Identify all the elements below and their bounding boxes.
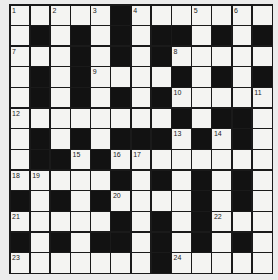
crossword-cell[interactable]: 14 bbox=[212, 129, 231, 148]
crossword-cell[interactable]: 15 bbox=[71, 150, 90, 169]
crossword-cell[interactable] bbox=[233, 150, 252, 169]
crossword-cell[interactable] bbox=[212, 88, 231, 107]
crossword-cell[interactable] bbox=[31, 191, 50, 210]
crossword-cell[interactable] bbox=[192, 253, 211, 272]
crossword-cell[interactable] bbox=[253, 212, 272, 231]
crossword-cell[interactable] bbox=[132, 88, 151, 107]
crossword-cell[interactable] bbox=[51, 253, 70, 272]
crossword-cell[interactable]: 12 bbox=[11, 109, 30, 128]
crossword-cell[interactable] bbox=[91, 47, 110, 66]
crossword-cell[interactable] bbox=[31, 212, 50, 231]
crossword-cell[interactable] bbox=[71, 233, 90, 252]
crossword-cell[interactable] bbox=[192, 150, 211, 169]
crossword-cell[interactable] bbox=[152, 191, 171, 210]
crossword-cell[interactable] bbox=[253, 109, 272, 128]
crossword-cell[interactable] bbox=[11, 129, 30, 148]
crossword-cell[interactable]: 4 bbox=[132, 6, 151, 25]
crossword-cell[interactable] bbox=[31, 6, 50, 25]
crossword-cell[interactable] bbox=[51, 129, 70, 148]
crossword-cell[interactable] bbox=[192, 109, 211, 128]
crossword-cell[interactable] bbox=[31, 109, 50, 128]
crossword-cell[interactable] bbox=[172, 233, 191, 252]
crossword-cell[interactable] bbox=[31, 233, 50, 252]
crossword-cell[interactable] bbox=[71, 191, 90, 210]
crossword-cell[interactable]: 9 bbox=[91, 67, 110, 86]
crossword-cell[interactable] bbox=[132, 171, 151, 190]
crossword-cell[interactable] bbox=[51, 47, 70, 66]
crossword-cell[interactable]: 23 bbox=[11, 253, 30, 272]
crossword-cell[interactable] bbox=[132, 109, 151, 128]
crossword-cell[interactable]: 19 bbox=[31, 171, 50, 190]
crossword-cell[interactable] bbox=[192, 47, 211, 66]
crossword-cell[interactable] bbox=[132, 26, 151, 45]
crossword-cell[interactable] bbox=[51, 88, 70, 107]
crossword-cell[interactable] bbox=[253, 6, 272, 25]
crossword-cell[interactable] bbox=[11, 26, 30, 45]
crossword-cell[interactable] bbox=[152, 67, 171, 86]
crossword-cell[interactable] bbox=[11, 150, 30, 169]
crossword-cell[interactable] bbox=[212, 47, 231, 66]
crossword-cell[interactable] bbox=[253, 129, 272, 148]
crossword-cell[interactable] bbox=[51, 26, 70, 45]
crossword-cell[interactable]: 21 bbox=[11, 212, 30, 231]
crossword-cell[interactable] bbox=[192, 67, 211, 86]
crossword-cell[interactable] bbox=[91, 26, 110, 45]
crossword-cell[interactable]: 16 bbox=[111, 150, 130, 169]
crossword-cell[interactable] bbox=[233, 88, 252, 107]
crossword-cell[interactable] bbox=[233, 212, 252, 231]
crossword-cell[interactable] bbox=[172, 6, 191, 25]
crossword-cell[interactable] bbox=[253, 253, 272, 272]
crossword-cell[interactable]: 8 bbox=[172, 47, 191, 66]
crossword-cell[interactable]: 24 bbox=[172, 253, 191, 272]
crossword-cell[interactable] bbox=[51, 67, 70, 86]
crossword-cell[interactable]: 10 bbox=[172, 88, 191, 107]
crossword-cell[interactable] bbox=[111, 253, 130, 272]
crossword-cell[interactable]: 7 bbox=[11, 47, 30, 66]
crossword-cell[interactable] bbox=[91, 212, 110, 231]
crossword-cell[interactable] bbox=[71, 171, 90, 190]
crossword-cell[interactable] bbox=[212, 6, 231, 25]
crossword-cell[interactable] bbox=[91, 171, 110, 190]
crossword-cell[interactable] bbox=[233, 67, 252, 86]
crossword-cell[interactable]: 1 bbox=[11, 6, 30, 25]
crossword-cell[interactable]: 13 bbox=[172, 129, 191, 148]
crossword-cell[interactable] bbox=[11, 67, 30, 86]
crossword-cell[interactable] bbox=[111, 67, 130, 86]
crossword-cell[interactable] bbox=[111, 109, 130, 128]
crossword-cell[interactable]: 6 bbox=[233, 6, 252, 25]
crossword-cell[interactable]: 2 bbox=[51, 6, 70, 25]
crossword-cell[interactable] bbox=[253, 47, 272, 66]
crossword-cell[interactable] bbox=[51, 212, 70, 231]
crossword-cell[interactable] bbox=[253, 191, 272, 210]
crossword-cell[interactable] bbox=[212, 191, 231, 210]
crossword-cell[interactable] bbox=[91, 109, 110, 128]
crossword-cell[interactable] bbox=[132, 212, 151, 231]
crossword-cell[interactable] bbox=[132, 67, 151, 86]
crossword-cell[interactable] bbox=[253, 233, 272, 252]
crossword-cell[interactable]: 22 bbox=[212, 212, 231, 231]
crossword-cell[interactable] bbox=[212, 233, 231, 252]
crossword-cell[interactable]: 3 bbox=[91, 6, 110, 25]
crossword-cell[interactable] bbox=[172, 150, 191, 169]
crossword-cell[interactable] bbox=[172, 191, 191, 210]
crossword-cell[interactable] bbox=[172, 171, 191, 190]
crossword-cell[interactable] bbox=[192, 88, 211, 107]
crossword-cell[interactable] bbox=[152, 109, 171, 128]
crossword-cell[interactable] bbox=[71, 212, 90, 231]
crossword-cell[interactable] bbox=[253, 150, 272, 169]
crossword-cell[interactable] bbox=[233, 26, 252, 45]
crossword-cell[interactable] bbox=[233, 47, 252, 66]
crossword-cell[interactable] bbox=[71, 253, 90, 272]
crossword-cell[interactable] bbox=[132, 233, 151, 252]
crossword-cell[interactable] bbox=[71, 6, 90, 25]
crossword-cell[interactable] bbox=[192, 26, 211, 45]
crossword-cell[interactable]: 5 bbox=[192, 6, 211, 25]
crossword-cell[interactable]: 20 bbox=[111, 191, 130, 210]
crossword-cell[interactable] bbox=[31, 253, 50, 272]
crossword-cell[interactable]: 11 bbox=[253, 88, 272, 107]
crossword-cell[interactable] bbox=[91, 253, 110, 272]
crossword-cell[interactable] bbox=[132, 253, 151, 272]
crossword-cell[interactable] bbox=[51, 109, 70, 128]
crossword-cell[interactable] bbox=[71, 109, 90, 128]
crossword-cell[interactable] bbox=[233, 253, 252, 272]
